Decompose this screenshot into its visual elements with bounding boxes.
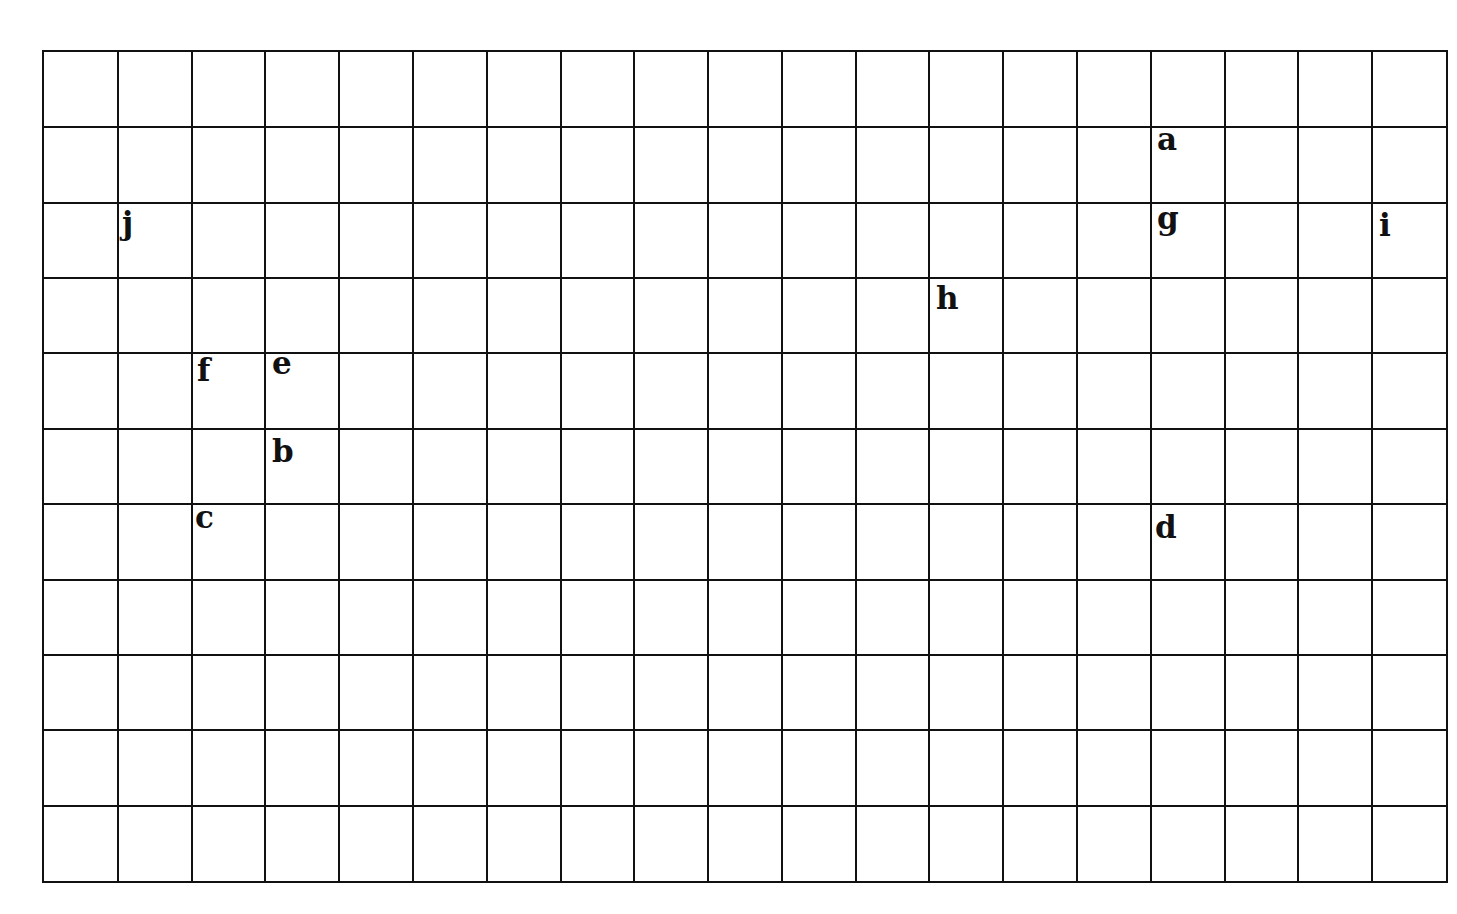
point-label-g: g — [1157, 203, 1179, 234]
grid-column-line — [633, 52, 635, 881]
grid-row-line — [44, 428, 1446, 430]
grid-row-line — [44, 126, 1446, 128]
point-label-f: f — [197, 355, 210, 386]
coordinate-grid — [42, 50, 1448, 883]
grid-column-line — [1150, 52, 1152, 881]
grid-row-line — [44, 654, 1446, 656]
grid-column-line — [707, 52, 709, 881]
grid-row-line — [44, 729, 1446, 731]
grid-column-line — [338, 52, 340, 881]
grid-row-line — [44, 805, 1446, 807]
point-label-a: a — [1157, 124, 1177, 155]
point-label-e: e — [272, 348, 292, 379]
grid-column-line — [928, 52, 930, 881]
point-label-d: d — [1155, 512, 1177, 543]
grid-row-line — [44, 202, 1446, 204]
grid-row-line — [44, 579, 1446, 581]
point-label-j: j — [122, 208, 133, 239]
grid-column-line — [1002, 52, 1004, 881]
grid-column-line — [486, 52, 488, 881]
point-label-h: h — [936, 283, 959, 314]
grid-column-line — [1371, 52, 1373, 881]
grid-column-line — [412, 52, 414, 881]
grid-column-line — [1297, 52, 1299, 881]
point-label-b: b — [272, 436, 294, 467]
grid-column-line — [560, 52, 562, 881]
point-label-c: c — [195, 502, 214, 533]
grid-column-line — [117, 52, 119, 881]
grid-row-line — [44, 503, 1446, 505]
grid-row-line — [44, 277, 1446, 279]
grid-column-line — [1224, 52, 1226, 881]
grid-column-line — [264, 52, 266, 881]
grid-column-line — [191, 52, 193, 881]
grid-column-line — [855, 52, 857, 881]
grid-column-line — [1076, 52, 1078, 881]
grid-row-line — [44, 352, 1446, 354]
point-label-i: i — [1379, 210, 1391, 241]
grid-column-line — [781, 52, 783, 881]
